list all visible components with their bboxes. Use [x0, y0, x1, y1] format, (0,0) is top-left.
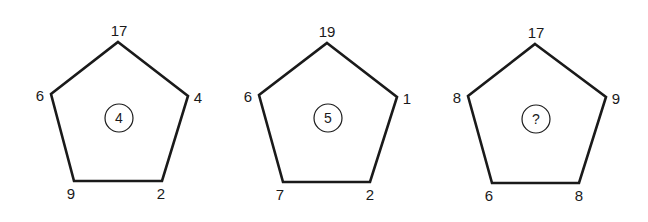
- vertex-number-right: 4: [194, 89, 202, 106]
- vertex-number-right: 1: [403, 90, 411, 107]
- vertex-number-top: 17: [528, 24, 545, 41]
- vertex-number-left: 6: [244, 88, 252, 105]
- pentagon-3-question: 178968?: [453, 24, 620, 204]
- center-value: 5: [324, 110, 332, 126]
- puzzle-diagram: 1764924 1961725 178968?: [0, 0, 648, 222]
- vertex-number-bottom-left: 9: [67, 185, 75, 202]
- vertex-number-bottom-right: 8: [575, 187, 583, 204]
- vertex-number-bottom-right: 2: [157, 185, 165, 202]
- vertex-number-right: 9: [612, 90, 620, 107]
- pentagon-puzzle: 1764924 1961725 178968?: [0, 0, 648, 222]
- vertex-number-bottom-left: 6: [485, 187, 493, 204]
- vertex-number-left: 8: [453, 89, 461, 106]
- vertex-number-top: 19: [319, 23, 336, 40]
- pentagon-1: 1764924: [36, 22, 202, 202]
- center-value: 4: [115, 110, 123, 126]
- center-value: ?: [532, 111, 540, 127]
- pentagon-2: 1961725: [244, 23, 411, 203]
- vertex-number-bottom-left: 7: [276, 186, 284, 203]
- vertex-number-bottom-right: 2: [366, 186, 374, 203]
- vertex-number-left: 6: [36, 87, 44, 104]
- vertex-number-top: 17: [111, 22, 128, 39]
